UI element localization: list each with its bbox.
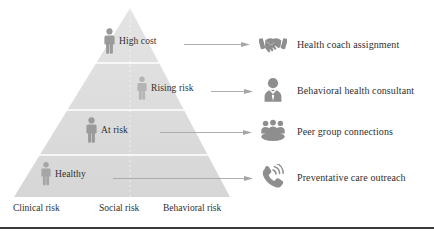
handshake-icon xyxy=(258,29,288,59)
axis-label-behavioral-risk: Behavioral risk xyxy=(163,203,221,213)
pyramid-tier-high-cost: High cost xyxy=(104,28,157,54)
arrow-rising-risk-to-behavioral-consultant xyxy=(211,87,253,96)
person-icon xyxy=(41,161,51,186)
arrow-high-cost-to-health-coach xyxy=(184,40,250,49)
pyramid-tier-label: Healthy xyxy=(55,169,86,179)
peer-group-icon xyxy=(258,116,288,146)
outcome-preventative-care-outreach: Preventative care outreach xyxy=(258,162,406,192)
axis-label-social-risk: Social risk xyxy=(99,203,139,213)
outcome-label: Behavioral health consultant xyxy=(297,85,414,96)
axis-label-clinical-risk: Clinical risk xyxy=(13,203,60,213)
outcome-label: Preventative care outreach xyxy=(297,172,406,183)
arrow-at-risk-to-peer-group xyxy=(160,128,252,137)
person-icon xyxy=(104,28,115,54)
bottom-divider-rule xyxy=(0,227,434,229)
arrow-healthy-to-preventative-outreach xyxy=(113,174,253,183)
pyramid-tier-label: High cost xyxy=(119,36,157,46)
person-icon xyxy=(86,117,97,143)
pyramid-tier-healthy: Healthy xyxy=(41,161,86,186)
pyramid-tier-rising-risk: Rising risk xyxy=(137,76,194,100)
ringing-phone-icon xyxy=(258,162,288,192)
person-icon xyxy=(137,76,147,100)
outcome-peer-group-connections: Peer group connections xyxy=(258,116,393,146)
pyramid-tier-label: Rising risk xyxy=(151,83,194,93)
pyramid-tier-label: At risk xyxy=(101,125,128,135)
outcome-behavioral-health-consultant: Behavioral health consultant xyxy=(258,75,414,105)
pyramid-axis-labels: Clinical risk Social risk Behavioral ris… xyxy=(0,203,248,221)
pyramid-tier-at-risk: At risk xyxy=(86,117,128,143)
outcome-label: Health coach assignment xyxy=(297,39,399,50)
outcome-health-coach-assignment: Health coach assignment xyxy=(258,29,399,59)
outcome-label: Peer group connections xyxy=(297,126,393,137)
risk-stratification-diagram: High cost Rising risk At risk Healthy xyxy=(0,0,434,235)
business-person-icon xyxy=(258,75,288,105)
